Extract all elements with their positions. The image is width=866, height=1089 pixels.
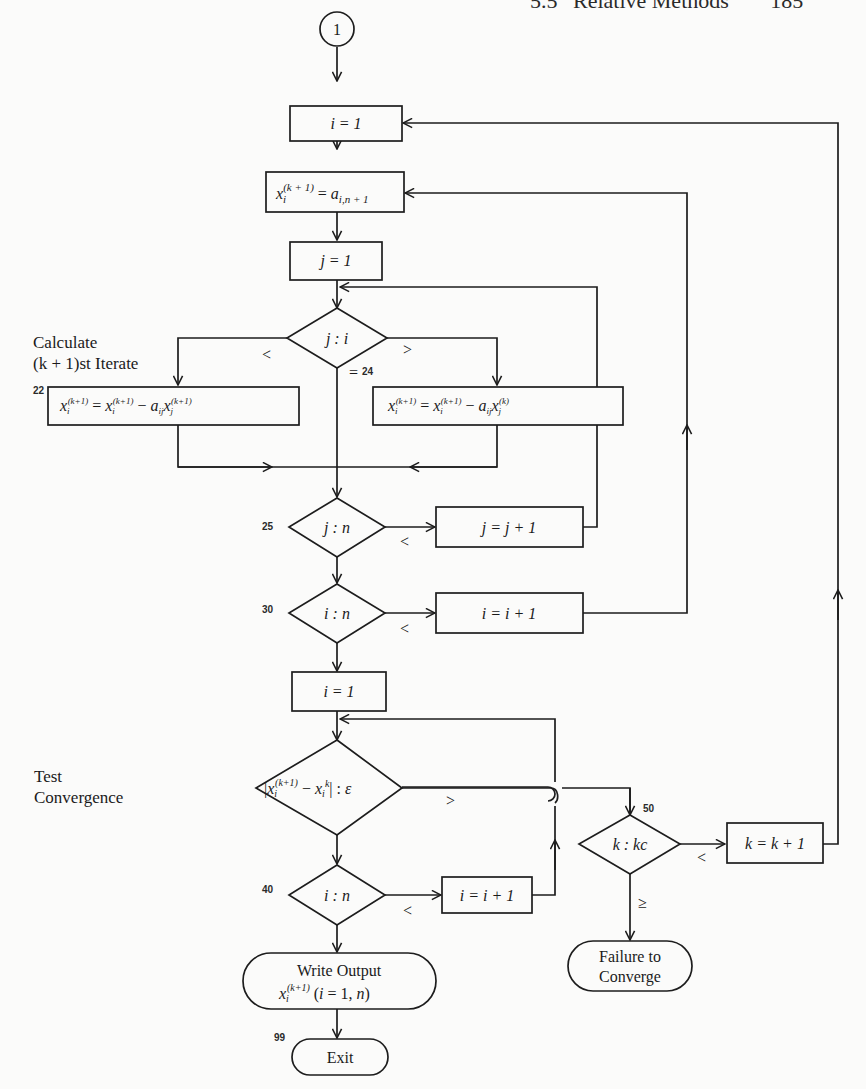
label-ji-gt: > [403, 341, 412, 358]
edge-inc-k-loop [403, 123, 838, 844]
svg-text:j = 1: j = 1 [318, 252, 351, 270]
decision-j-i: j : i [287, 308, 387, 368]
label-in2-lt: < [403, 902, 412, 919]
svg-text:i = 1: i = 1 [323, 683, 354, 700]
edge-inc-i2-loop [532, 806, 555, 895]
svg-text:j : n: j : n [322, 519, 350, 537]
label-ji-lt: < [262, 346, 271, 363]
flowchart: 1 i = 1 xi(k + 1) = ai,n + 1 j = 1 j : i… [0, 0, 866, 1089]
terminal-exit: 99 Exit [274, 1032, 388, 1075]
svg-text:1: 1 [333, 21, 341, 38]
decision-i-n: 30 i : n [262, 584, 385, 643]
connector-1: 1 [320, 12, 354, 46]
terminal-failure: Failure to Converge [568, 941, 692, 991]
label-jn-lt: < [400, 533, 409, 550]
svg-text:40: 40 [262, 884, 274, 895]
svg-text:25: 25 [262, 521, 274, 532]
decision-j-n: 25 j : n [262, 498, 385, 557]
label-kkc-lt: < [697, 849, 706, 866]
label-in-lt: < [400, 620, 409, 637]
svg-text:j : i: j : i [324, 330, 348, 348]
process-init-j: j = 1 [290, 242, 382, 280]
process-reset-i: i = 1 [292, 672, 386, 711]
svg-text:i : n: i : n [324, 605, 350, 622]
svg-text:24: 24 [362, 366, 374, 377]
svg-text:22: 22 [33, 385, 45, 396]
svg-text:i = i + 1: i = i + 1 [482, 605, 536, 622]
process-inc-k: k = k + 1 [727, 823, 823, 863]
annotation-calculate: Calculate [33, 333, 97, 352]
process-inc-i-2: i = i + 1 [442, 877, 532, 913]
svg-text:i = 1: i = 1 [330, 115, 361, 132]
process-calc-lt: 22 xi(k+1) = xi(k+1) − aijxj(k+1) [33, 385, 299, 425]
svg-text:Write Output: Write Output [297, 962, 382, 980]
edge-test-gt [402, 788, 630, 814]
label-conv-gt: > [446, 792, 455, 809]
process-inc-i: i = i + 1 [436, 593, 583, 633]
process-inc-j: j = j + 1 [436, 507, 583, 547]
process-calc-gt: 24 xi(k+1) = xi(k+1) − aijxj(k) [362, 366, 623, 425]
svg-text:Converge: Converge [599, 968, 661, 986]
label-ji-eq: = [349, 364, 358, 381]
svg-text:Failure to: Failure to [599, 948, 661, 965]
edge-calc-lt-merge [178, 425, 337, 467]
svg-text:k : kc: k : kc [613, 836, 648, 853]
svg-text:30: 30 [262, 604, 274, 615]
svg-text:50: 50 [643, 803, 655, 814]
process-init-i: i = 1 [290, 106, 402, 141]
svg-text:i : n: i : n [324, 887, 350, 904]
annotation-test: Test [34, 767, 62, 786]
process-init-x: xi(k + 1) = ai,n + 1 [266, 172, 404, 212]
svg-text:i = i + 1: i = i + 1 [460, 887, 514, 904]
svg-text:k = k + 1: k = k + 1 [745, 835, 805, 852]
terminal-write-output: Write Output xi(k+1) (i = 1, n) [243, 953, 436, 1009]
label-kkc-ge: ≥ [638, 894, 647, 911]
svg-text:j = j + 1: j = j + 1 [480, 519, 536, 537]
svg-text:99: 99 [274, 1032, 286, 1043]
annotation-convergence: Convergence [34, 788, 123, 807]
annotation-iterate: (k + 1)st Iterate [33, 354, 138, 373]
svg-text:Exit: Exit [327, 1049, 354, 1066]
decision-i-n-40: 40 i : n [262, 865, 385, 925]
edge-calc-gt-merge [337, 425, 497, 467]
decision-test-convergence: |xi(k+1) − xik| : ε [256, 740, 402, 835]
